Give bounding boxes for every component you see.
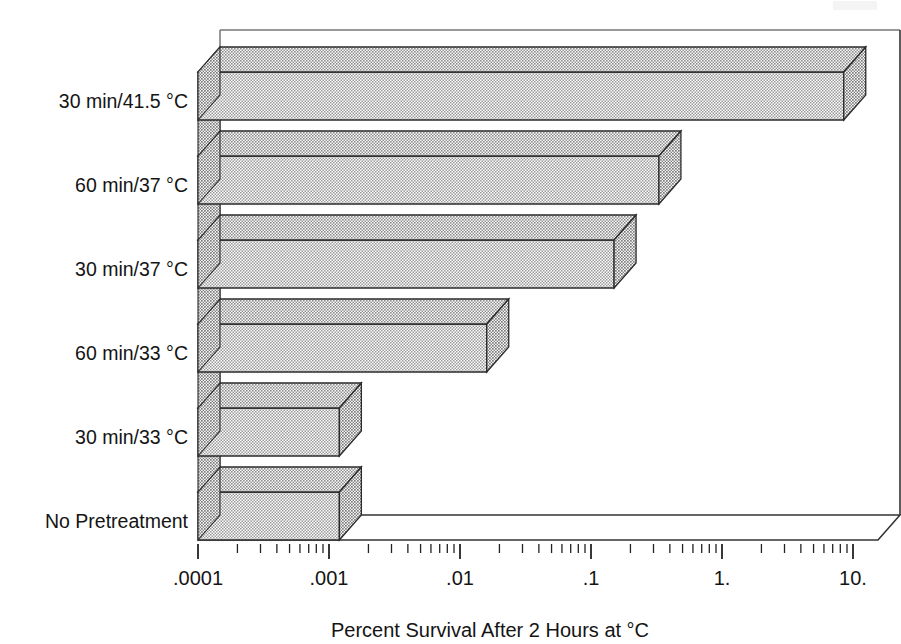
- x-tick-label-2: .01: [446, 567, 474, 589]
- y-category-label-5: 30 min/41.5 °C: [59, 90, 188, 112]
- x-tick-label-1: .001: [310, 567, 349, 589]
- bar-front-face: [198, 324, 487, 372]
- x-axis-tick-labels: .0001.001.01.11.10.: [173, 567, 867, 589]
- x-axis-ticks: [198, 544, 853, 559]
- y-category-label-4: 60 min/37 °C: [75, 174, 188, 196]
- x-tick-label-0: .0001: [173, 567, 223, 589]
- bar-top-face: [198, 467, 361, 492]
- bar-front-face: [198, 72, 844, 120]
- page-number-artifact: [833, 1, 877, 10]
- bar-front-face: [198, 240, 614, 288]
- x-tick-label-4: 1.: [714, 567, 731, 589]
- bar-top-face: [198, 299, 509, 324]
- chart-canvas: .0001.001.01.11.10. No Pretreatment30 mi…: [0, 0, 901, 644]
- bar-top-face: [198, 383, 361, 408]
- bar-top-face: [198, 215, 636, 240]
- y-category-label-0: No Pretreatment: [45, 510, 189, 532]
- bar-top-face: [198, 47, 866, 72]
- x-tick-label-3: .1: [583, 567, 600, 589]
- bar-top-face: [198, 131, 681, 156]
- x-axis-title: Percent Survival After 2 Hours at °C: [331, 619, 649, 641]
- bars-group: [198, 47, 866, 540]
- bar-front-face: [198, 156, 659, 204]
- bar-chart-figure: .0001.001.01.11.10. No Pretreatment30 mi…: [0, 0, 901, 644]
- y-axis-category-labels: No Pretreatment30 min/33 °C60 min/33 °C3…: [45, 90, 189, 532]
- y-category-label-3: 30 min/37 °C: [75, 258, 188, 280]
- bar-6: [198, 47, 866, 120]
- x-tick-label-5: 10.: [839, 567, 867, 589]
- y-category-label-2: 60 min/33 °C: [75, 342, 188, 364]
- y-category-label-1: 30 min/33 °C: [75, 426, 188, 448]
